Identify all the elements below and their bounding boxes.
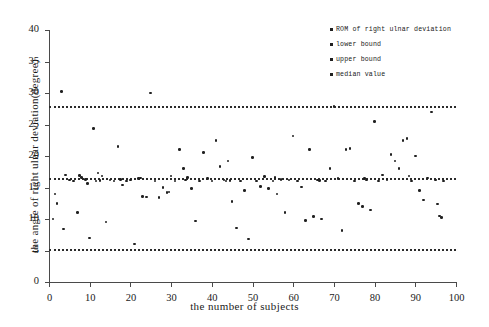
- data-point: [296, 180, 299, 183]
- y-axis-tick-label: 5: [34, 244, 39, 255]
- x-axis-tick: 10: [90, 282, 91, 287]
- data-point: [255, 180, 258, 183]
- data-point: [333, 105, 336, 108]
- data-point: [292, 135, 295, 138]
- data-point: [178, 148, 181, 151]
- x-axis-tick-label: 70: [329, 292, 340, 303]
- chart-legend: ROM of right ulnar deviationlower boundu…: [330, 22, 486, 82]
- data-point: [202, 151, 205, 154]
- y-axis-tick-label: 0: [34, 275, 39, 286]
- data-point: [349, 147, 352, 150]
- data-point: [194, 220, 197, 223]
- data-point: [211, 180, 214, 183]
- y-axis-tick: 35: [45, 62, 50, 63]
- x-axis-tick: 30: [171, 282, 172, 287]
- data-point: [320, 218, 323, 221]
- scatter-chart: the angle of right ulnar deviation(degre…: [0, 0, 489, 327]
- data-point: [430, 111, 433, 114]
- data-point: [239, 180, 242, 183]
- data-point: [390, 153, 393, 156]
- data-point: [373, 120, 376, 123]
- y-axis-tick: 10: [45, 219, 50, 220]
- legend-item-label: upper bound: [336, 56, 381, 63]
- x-axis-tick-label: 30: [166, 292, 177, 303]
- x-axis-tick: 20: [130, 282, 131, 287]
- data-point: [369, 209, 372, 212]
- y-axis-tick-label: 15: [29, 181, 40, 192]
- legend-dot-icon: [330, 43, 333, 46]
- legend-item-2: upper bound: [330, 52, 486, 66]
- data-point: [182, 167, 185, 170]
- y-axis-tick-label: 30: [29, 86, 40, 97]
- data-point: [398, 167, 401, 170]
- data-point: [345, 148, 348, 151]
- data-point: [62, 228, 65, 231]
- data-point: [64, 174, 67, 177]
- data-point: [422, 199, 425, 202]
- y-axis-tick-label: 10: [29, 212, 40, 223]
- y-axis-tick: 25: [45, 125, 50, 126]
- legend-dot-icon: [330, 28, 333, 31]
- legend-dot-icon: [330, 73, 333, 76]
- x-axis-tick-label: 80: [370, 292, 381, 303]
- legend-item-1: lower bound: [330, 37, 486, 51]
- data-point: [198, 180, 201, 183]
- data-point: [109, 179, 112, 182]
- data-point: [125, 180, 128, 183]
- reference-line-lower-bound: [49, 249, 456, 251]
- data-point: [184, 179, 187, 182]
- data-point: [361, 205, 364, 208]
- data-point: [92, 127, 95, 130]
- data-point: [219, 165, 222, 168]
- data-point: [247, 238, 250, 241]
- x-axis-tick: 70: [334, 282, 335, 287]
- data-point: [440, 216, 443, 219]
- legend-item-0: ROM of right ulnar deviation: [330, 22, 486, 36]
- data-point: [88, 237, 91, 240]
- x-axis-tick-label: 20: [126, 292, 137, 303]
- x-axis-tick: 90: [415, 282, 416, 287]
- data-point: [154, 180, 157, 183]
- data-point: [52, 218, 55, 221]
- data-point: [206, 177, 209, 180]
- data-point: [381, 174, 384, 177]
- data-point: [353, 180, 356, 183]
- data-point: [145, 196, 148, 199]
- y-axis-tick-label: 25: [29, 118, 40, 129]
- y-axis-tick-label: 35: [29, 55, 40, 66]
- data-point: [227, 160, 230, 163]
- data-point: [133, 243, 136, 246]
- data-point: [60, 90, 63, 93]
- data-point: [231, 200, 234, 203]
- x-axis-tick: 80: [375, 282, 376, 287]
- data-point: [141, 195, 144, 198]
- x-axis-tick: 40: [212, 282, 213, 287]
- x-axis-tick-label: 0: [47, 292, 52, 303]
- x-axis-tick: 60: [293, 282, 294, 287]
- y-axis-tick-label: 40: [29, 23, 40, 34]
- y-axis-tick: 20: [45, 156, 50, 157]
- data-point: [235, 227, 238, 230]
- data-point: [402, 139, 405, 142]
- data-point: [251, 156, 254, 159]
- data-point: [225, 180, 228, 183]
- x-axis-tick: 50: [253, 282, 254, 287]
- data-point: [117, 145, 120, 148]
- data-point: [121, 184, 124, 187]
- y-axis-tick: 30: [45, 93, 50, 94]
- data-point: [280, 178, 283, 181]
- data-point: [97, 172, 100, 175]
- data-point: [304, 219, 307, 222]
- data-point: [86, 182, 89, 185]
- data-point: [267, 187, 270, 190]
- y-axis-tick-label: 20: [29, 149, 40, 160]
- data-point: [406, 137, 409, 140]
- x-axis-tick-label: 10: [85, 292, 96, 303]
- data-point: [324, 180, 327, 183]
- data-point: [329, 167, 332, 170]
- data-point: [312, 215, 315, 218]
- data-point: [357, 202, 360, 205]
- x-axis-tick: 0: [49, 282, 50, 287]
- data-point: [215, 139, 218, 142]
- x-axis-tick-label: 90: [411, 292, 422, 303]
